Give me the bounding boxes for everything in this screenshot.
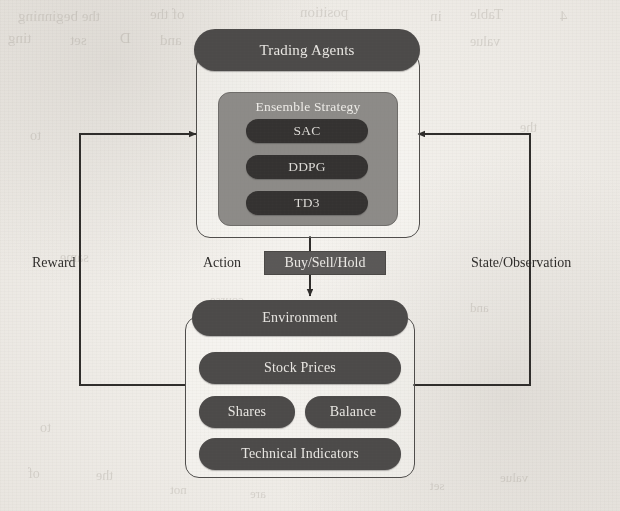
environment-component-shares: Shares xyxy=(199,396,295,428)
environment-component-balance: Balance xyxy=(305,396,401,428)
environment-title-node: Environment xyxy=(192,300,408,336)
environment-component-stock-prices: Stock Prices xyxy=(199,352,401,384)
action-box: Buy/Sell/Hold xyxy=(264,251,386,275)
algorithm-label-sac: SAC xyxy=(294,123,321,139)
trading-agents-title-node: Trading Agents xyxy=(194,29,420,71)
algorithm-label-ddpg: DDPG xyxy=(288,159,326,175)
shares-label: Shares xyxy=(228,404,267,420)
stock-prices-label: Stock Prices xyxy=(264,360,336,376)
action-box-label: Buy/Sell/Hold xyxy=(285,255,366,271)
trading-agents-title: Trading Agents xyxy=(259,42,354,59)
environment-component-technical-indicators: Technical Indicators xyxy=(199,438,401,470)
algorithm-label-td3: TD3 xyxy=(294,195,319,211)
action-label: Action xyxy=(203,255,241,271)
algorithm-node-td3: TD3 xyxy=(246,191,368,215)
ensemble-strategy-title: Ensemble Strategy xyxy=(219,99,397,115)
environment-title: Environment xyxy=(262,310,337,326)
technical-indicators-label: Technical Indicators xyxy=(241,446,359,462)
balance-label: Balance xyxy=(330,404,376,420)
figure-canvas: the beginningof thepositioninTable4tings… xyxy=(0,0,620,511)
reward-label: Reward xyxy=(32,255,76,271)
state-observation-label: State/Observation xyxy=(471,255,571,271)
algorithm-node-sac: SAC xyxy=(246,119,368,143)
algorithm-node-ddpg: DDPG xyxy=(246,155,368,179)
